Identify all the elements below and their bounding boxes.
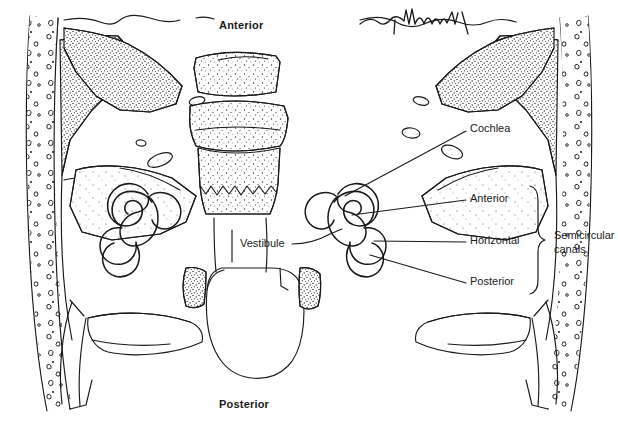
- group-label-line-2: canals: [554, 242, 615, 256]
- right-bony-labyrinth: [305, 184, 386, 277]
- leader-posterior: [370, 255, 466, 283]
- orientation-label-anterior: Anterior: [219, 19, 263, 33]
- callout-label-horizontal: Horizontal: [470, 234, 520, 248]
- right-posterior-fossa-wing: [416, 300, 558, 406]
- leader-horizontal: [374, 241, 466, 242]
- artist-signature: [360, 9, 468, 34]
- callout-label-cochlea: Cochlea: [470, 122, 510, 136]
- occipital-condyles: [183, 268, 321, 310]
- left-posterior-semicircular-canal: [103, 243, 140, 277]
- left-posterior-fossa-wing: [60, 300, 202, 406]
- diagram-canvas: Anterior Posterior Cochlea Anterior Hori…: [0, 0, 618, 423]
- orientation-label-posterior: Posterior: [219, 398, 269, 412]
- callout-label-posterior: Posterior: [470, 275, 514, 289]
- callout-label-vestibule: Vestibule: [240, 237, 285, 251]
- skull-base-drawing: [0, 0, 618, 423]
- foramen-magnum: [206, 268, 303, 378]
- group-label-semicircular-canals: Semicircular canals: [554, 228, 615, 257]
- callout-label-anterior: Anterior: [470, 192, 509, 206]
- group-label-line-1: Semicircular: [554, 228, 615, 242]
- left-middle-fossa-plate: [70, 166, 196, 240]
- right-posterior-semicircular-canal: [347, 243, 384, 277]
- right-anterior-semicircular-canal: [305, 193, 336, 229]
